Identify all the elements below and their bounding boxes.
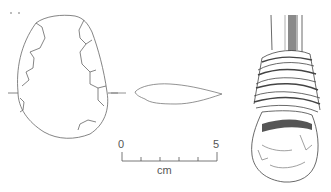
scale-start-label: 0	[118, 139, 124, 150]
handaxe-face-view	[18, 15, 108, 138]
hafted-handaxe	[252, 15, 320, 182]
scale-unit-label: cm	[157, 165, 172, 176]
handaxe-cross-section	[111, 84, 222, 104]
scale-bar	[122, 152, 217, 161]
scale-end-label: 5	[213, 139, 219, 150]
corner-marks	[10, 12, 20, 14]
